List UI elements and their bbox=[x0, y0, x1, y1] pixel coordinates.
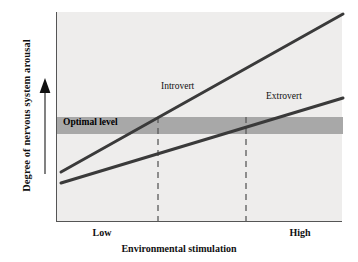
x-tick-label-low: Low bbox=[80, 227, 124, 238]
plot-area: Optimal level Introvert Extrovert bbox=[56, 12, 342, 222]
extrovert-series-label: Extrovert bbox=[266, 91, 302, 101]
y-axis-title: Degree of nervous system arousal bbox=[21, 16, 32, 216]
x-axis-title: Environmental stimulation bbox=[0, 243, 358, 254]
arousal-chart-figure: Degree of nervous system arousal Optimal… bbox=[0, 0, 358, 262]
introvert-series-label: Introvert bbox=[161, 81, 194, 91]
extrovert-line bbox=[61, 98, 343, 183]
x-tick-label-high: High bbox=[278, 227, 322, 238]
y-axis-direction-arrow-icon bbox=[38, 78, 52, 174]
optimal-level-band-label: Optimal level bbox=[63, 116, 118, 128]
